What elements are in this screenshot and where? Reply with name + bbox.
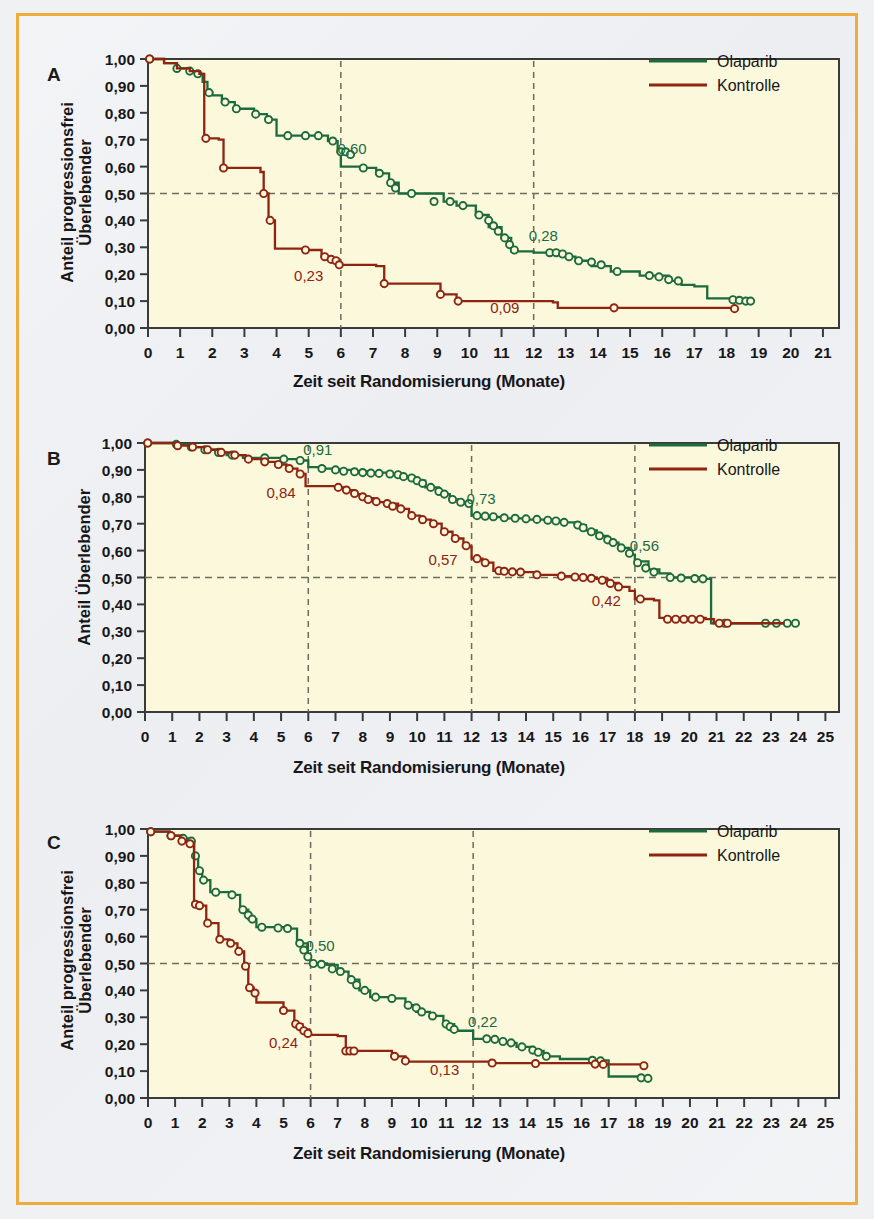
- censor-marker: [600, 1061, 607, 1068]
- y-axis-tick-label: 0,30: [102, 623, 132, 640]
- x-axis-tick-label: 0: [144, 344, 153, 361]
- y-axis-tick-label: 0,40: [105, 212, 135, 229]
- censor-marker: [147, 828, 154, 835]
- x-axis-tick-label: 6: [304, 728, 313, 745]
- censor-marker: [517, 569, 524, 576]
- y-axis-tick-label: 0,90: [105, 848, 135, 865]
- panel-b-xlabel: Zeit seit Randomisierung (Monate): [79, 758, 779, 778]
- censor-marker: [615, 583, 622, 590]
- y-axis-tick-label: 0,60: [102, 543, 132, 560]
- y-axis-tick-label: 0,20: [102, 650, 132, 667]
- censor-marker: [680, 616, 687, 623]
- x-axis-tick-label: 0: [141, 728, 150, 745]
- x-axis-tick-label: 18: [718, 344, 736, 361]
- curve-annotation: 0,42: [592, 592, 621, 609]
- censor-marker: [218, 449, 225, 456]
- x-axis-tick-label: 20: [681, 728, 698, 745]
- censor-marker: [699, 575, 706, 582]
- panel-b: B Anteil Überlebender 0,000,100,200,300,…: [19, 410, 861, 810]
- censor-marker: [501, 234, 508, 241]
- censor-marker: [227, 940, 234, 947]
- censor-marker: [318, 961, 325, 968]
- x-axis-tick-label: 18: [627, 1114, 645, 1131]
- censor-marker: [451, 1026, 458, 1033]
- x-axis-tick-label: 21: [814, 344, 832, 361]
- censor-marker: [251, 989, 258, 996]
- y-axis-tick-label: 0,20: [105, 1036, 135, 1053]
- x-axis-tick-label: 7: [369, 344, 378, 361]
- censor-marker: [596, 532, 603, 539]
- plot-area: [148, 829, 839, 1098]
- censor-marker: [489, 1059, 496, 1066]
- legend-label-kontrolle: Kontrolle: [717, 461, 780, 478]
- censor-marker: [501, 514, 508, 521]
- x-axis-tick-label: 13: [492, 1114, 510, 1131]
- x-axis-tick-label: 8: [358, 728, 367, 745]
- censor-marker: [196, 902, 203, 909]
- censor-marker: [212, 889, 219, 896]
- y-axis-tick-label: 0,80: [105, 105, 135, 122]
- x-axis-tick-label: 4: [250, 728, 259, 745]
- censor-marker: [235, 948, 242, 955]
- y-axis-tick-label: 0,60: [105, 929, 135, 946]
- censor-marker: [284, 132, 291, 139]
- censor-marker: [634, 559, 641, 566]
- x-axis-tick-label: 14: [517, 728, 535, 745]
- censor-marker: [640, 1062, 647, 1069]
- x-axis-tick-label: 15: [621, 344, 639, 361]
- curve-annotation: 0,22: [468, 1013, 497, 1030]
- censor-marker: [275, 461, 282, 468]
- y-axis-tick-label: 0,80: [105, 875, 135, 892]
- censor-marker: [637, 595, 644, 602]
- censor-marker: [491, 1036, 498, 1043]
- censor-marker: [430, 520, 437, 527]
- censor-marker: [204, 446, 211, 453]
- x-axis-tick-label: 12: [465, 1114, 482, 1131]
- x-axis-tick-label: 6: [306, 1114, 315, 1131]
- x-axis-tick-label: 19: [653, 728, 671, 745]
- y-axis-tick-label: 1,00: [105, 51, 135, 68]
- y-axis-tick-label: 0,10: [105, 1063, 135, 1080]
- censor-marker: [430, 198, 437, 205]
- y-axis-tick-label: 0,70: [102, 516, 132, 533]
- censor-marker: [592, 1061, 599, 1068]
- censor-marker: [216, 936, 223, 943]
- panel-c-xlabel: Zeit seit Randomisierung (Monate): [79, 1144, 779, 1164]
- censor-marker: [318, 465, 325, 472]
- censor-marker: [200, 877, 207, 884]
- x-axis-tick-label: 18: [626, 728, 644, 745]
- x-axis-tick-label: 23: [762, 728, 780, 745]
- censor-marker: [360, 164, 367, 171]
- x-axis-tick-label: 22: [735, 728, 752, 745]
- censor-marker: [258, 924, 265, 931]
- y-axis-tick-label: 0,50: [105, 956, 135, 973]
- y-axis-tick-label: 0,30: [105, 1009, 135, 1026]
- censor-marker: [691, 575, 698, 582]
- curve-annotation: 0,23: [294, 267, 323, 284]
- y-axis-tick-label: 0,40: [105, 982, 135, 999]
- y-axis-tick-label: 0,70: [105, 132, 135, 149]
- censor-marker: [558, 573, 565, 580]
- x-axis-tick-label: 4: [272, 344, 281, 361]
- censor-marker: [280, 1007, 287, 1014]
- censor-marker: [252, 111, 259, 118]
- x-axis-tick-label: 19: [750, 344, 768, 361]
- y-axis-tick-label: 0,50: [105, 186, 135, 203]
- censor-marker: [697, 616, 704, 623]
- censor-marker: [391, 1053, 398, 1060]
- censor-marker: [731, 305, 738, 312]
- censor-marker: [400, 473, 407, 480]
- x-axis-tick-label: 9: [388, 1114, 397, 1131]
- x-axis-tick-label: 3: [222, 728, 231, 745]
- censor-marker: [747, 298, 754, 305]
- censor-marker: [167, 832, 174, 839]
- censor-marker: [459, 202, 466, 209]
- censor-marker: [343, 486, 350, 493]
- y-axis-tick-label: 0,20: [105, 266, 135, 283]
- censor-marker: [475, 211, 482, 218]
- censor-marker: [297, 470, 304, 477]
- censor-marker: [650, 569, 657, 576]
- curve-annotation: 0,56: [630, 537, 659, 554]
- censor-marker: [192, 852, 199, 859]
- censor-marker: [437, 291, 444, 298]
